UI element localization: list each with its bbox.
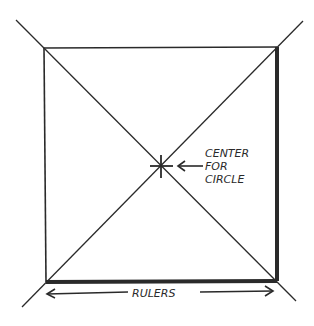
square-top-edge [44, 47, 277, 48]
diagonal-tr-bl [22, 21, 303, 307]
center-label-line1: CENTER [205, 147, 249, 160]
center-label-line2: FOR [205, 160, 228, 173]
diagonal-tl-br [16, 20, 296, 301]
diagonals [16, 20, 303, 307]
center-arrow-icon [178, 161, 203, 171]
ruler-bottom-edge [46, 281, 277, 282]
rulers-label: RULERS [132, 287, 175, 300]
square-left-edge [44, 48, 46, 282]
diagram-canvas: CENTER FOR CIRCLE RULERS [0, 0, 314, 326]
center-label-line3: CIRCLE [205, 173, 244, 186]
